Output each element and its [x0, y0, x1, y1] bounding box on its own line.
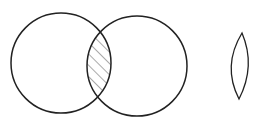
venn-diagram	[0, 0, 260, 125]
intersection-lens	[231, 33, 248, 99]
